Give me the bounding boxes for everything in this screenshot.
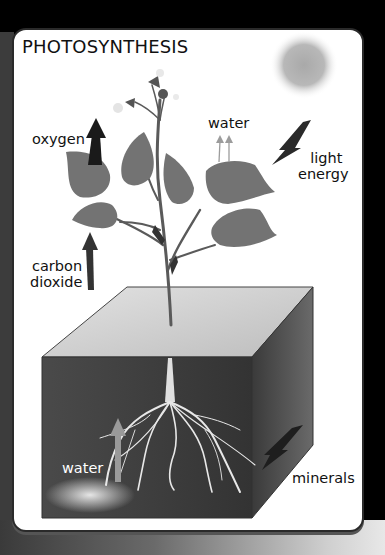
leaf-icon bbox=[164, 153, 194, 204]
water-vapor-arrows-icon bbox=[216, 135, 233, 162]
soil-water-label: water bbox=[62, 460, 103, 476]
light-energy-label-line2: energy bbox=[298, 166, 349, 182]
oxygen-label: oxygen bbox=[32, 131, 85, 147]
carbon-dioxide-arrow-icon bbox=[82, 232, 98, 290]
diagram-title: PHOTOSYNTHESIS bbox=[22, 36, 188, 57]
leaf-icon bbox=[206, 161, 275, 204]
carbon-dioxide-label-line2: dioxide bbox=[30, 274, 82, 290]
leaf-icon bbox=[211, 208, 277, 247]
leaf-icon bbox=[72, 202, 117, 228]
light-energy-label: light energy bbox=[304, 150, 349, 182]
flowers-icon bbox=[113, 69, 179, 113]
leaf-icon bbox=[66, 152, 110, 198]
carbon-dioxide-label-line1: carbon bbox=[32, 258, 82, 274]
soil-water-icon bbox=[45, 477, 135, 513]
oxygen-arrow-icon bbox=[86, 118, 106, 165]
water-vapor-label: water bbox=[208, 115, 249, 131]
minerals-label: minerals bbox=[292, 470, 355, 486]
carbon-dioxide-label: carbon dioxide bbox=[30, 258, 82, 290]
light-energy-label-line1: light bbox=[304, 150, 349, 166]
leaf-icon bbox=[121, 132, 154, 185]
sun-icon bbox=[270, 31, 338, 99]
